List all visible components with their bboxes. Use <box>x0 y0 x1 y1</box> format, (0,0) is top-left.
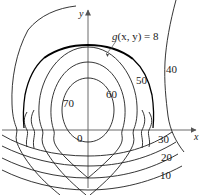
constraint-label-args: (x, y) <box>118 30 142 42</box>
contour-label-60: 60 <box>106 89 117 100</box>
contour-kinks-left <box>24 110 34 148</box>
contour-kinks-right <box>141 110 151 148</box>
contour-label-40: 40 <box>166 64 177 75</box>
contour-label-70: 70 <box>63 98 74 109</box>
contour-plot-figure: g(x, y) = 8 70 60 50 40 30 20 10 0 y x <box>0 0 213 195</box>
contour-label-10: 10 <box>160 170 171 181</box>
constraint-label: g(x, y) = 8 <box>112 31 159 42</box>
constraint-curve-tail <box>23 58 153 128</box>
constraint-label-equals: = 8 <box>141 30 158 42</box>
contour-label-50: 50 <box>136 75 147 86</box>
contour-label-30: 30 <box>158 134 169 145</box>
x-axis-label: x <box>194 132 198 142</box>
y-axis-label: y <box>79 9 83 19</box>
contour-label-20: 20 <box>161 152 172 163</box>
origin-label: 0 <box>77 133 83 144</box>
